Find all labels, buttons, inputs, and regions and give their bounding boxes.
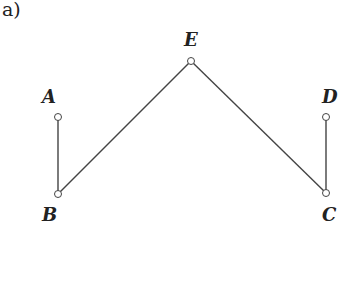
edge-b-e	[58, 61, 191, 194]
edge-e-c	[191, 61, 326, 193]
node-e	[188, 58, 195, 65]
graph-diagram: ABEDC	[0, 0, 352, 283]
node-a	[55, 114, 62, 121]
node-b	[55, 191, 62, 198]
edges	[58, 61, 326, 194]
node-c	[323, 190, 330, 197]
node-label-e: E	[183, 29, 198, 50]
node-label-c: C	[322, 204, 337, 225]
node-d	[323, 114, 330, 121]
node-label-d: D	[321, 86, 338, 107]
nodes	[55, 58, 330, 198]
node-label-a: A	[40, 86, 56, 107]
node-label-b: B	[41, 204, 57, 225]
